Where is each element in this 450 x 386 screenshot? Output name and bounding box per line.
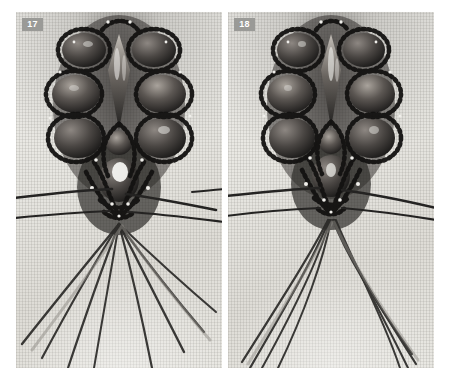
step-badge-18: 18 [234, 18, 255, 31]
beadwork-illustration-18 [228, 12, 434, 368]
beadwork-illustration-17 [16, 12, 222, 368]
step-badge-17: 17 [22, 18, 43, 31]
screenshot-root: 17 [0, 0, 450, 386]
photo-panel-step-17: 17 [16, 12, 222, 368]
photo-panel-step-18: 18 [228, 12, 434, 368]
